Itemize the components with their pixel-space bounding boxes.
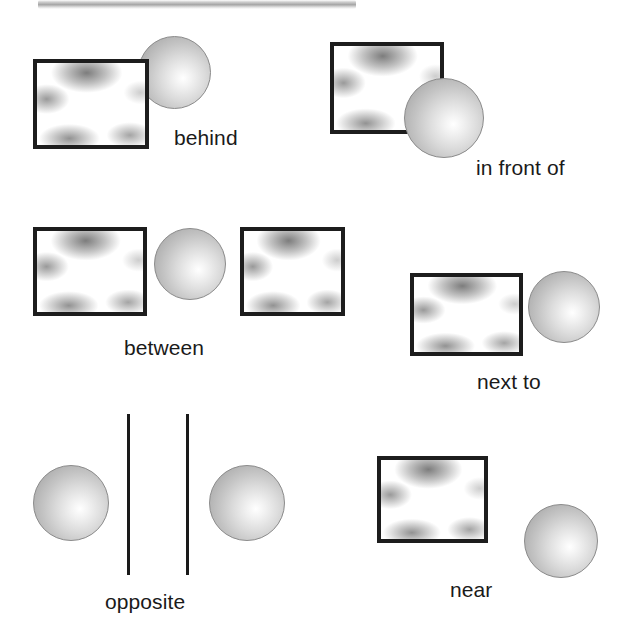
next-to-sphere: [528, 271, 600, 343]
label-opposite: opposite: [105, 591, 185, 612]
label-next-to: next to: [477, 371, 541, 392]
near-sphere: [524, 504, 598, 578]
label-behind: behind: [174, 127, 238, 148]
label-in-front-of: in front of: [476, 157, 565, 178]
behind-rectangle: [33, 59, 149, 149]
spatial-prepositions-figure: behindin front ofbetweennext tooppositen…: [0, 0, 630, 625]
near-rectangle: [377, 456, 488, 543]
between-sphere: [154, 228, 226, 300]
label-near: near: [450, 579, 492, 600]
next-to-rectangle: [410, 273, 523, 356]
between-rectangle-left: [33, 227, 147, 316]
label-between: between: [124, 337, 204, 358]
opposite-sphere-left: [33, 465, 109, 541]
in-front-of-sphere: [404, 78, 484, 158]
opposite-sphere-right: [209, 465, 285, 541]
between-rectangle-right: [240, 227, 345, 316]
opposite-divider-line-right: [186, 414, 189, 575]
opposite-divider-line-left: [127, 414, 130, 575]
